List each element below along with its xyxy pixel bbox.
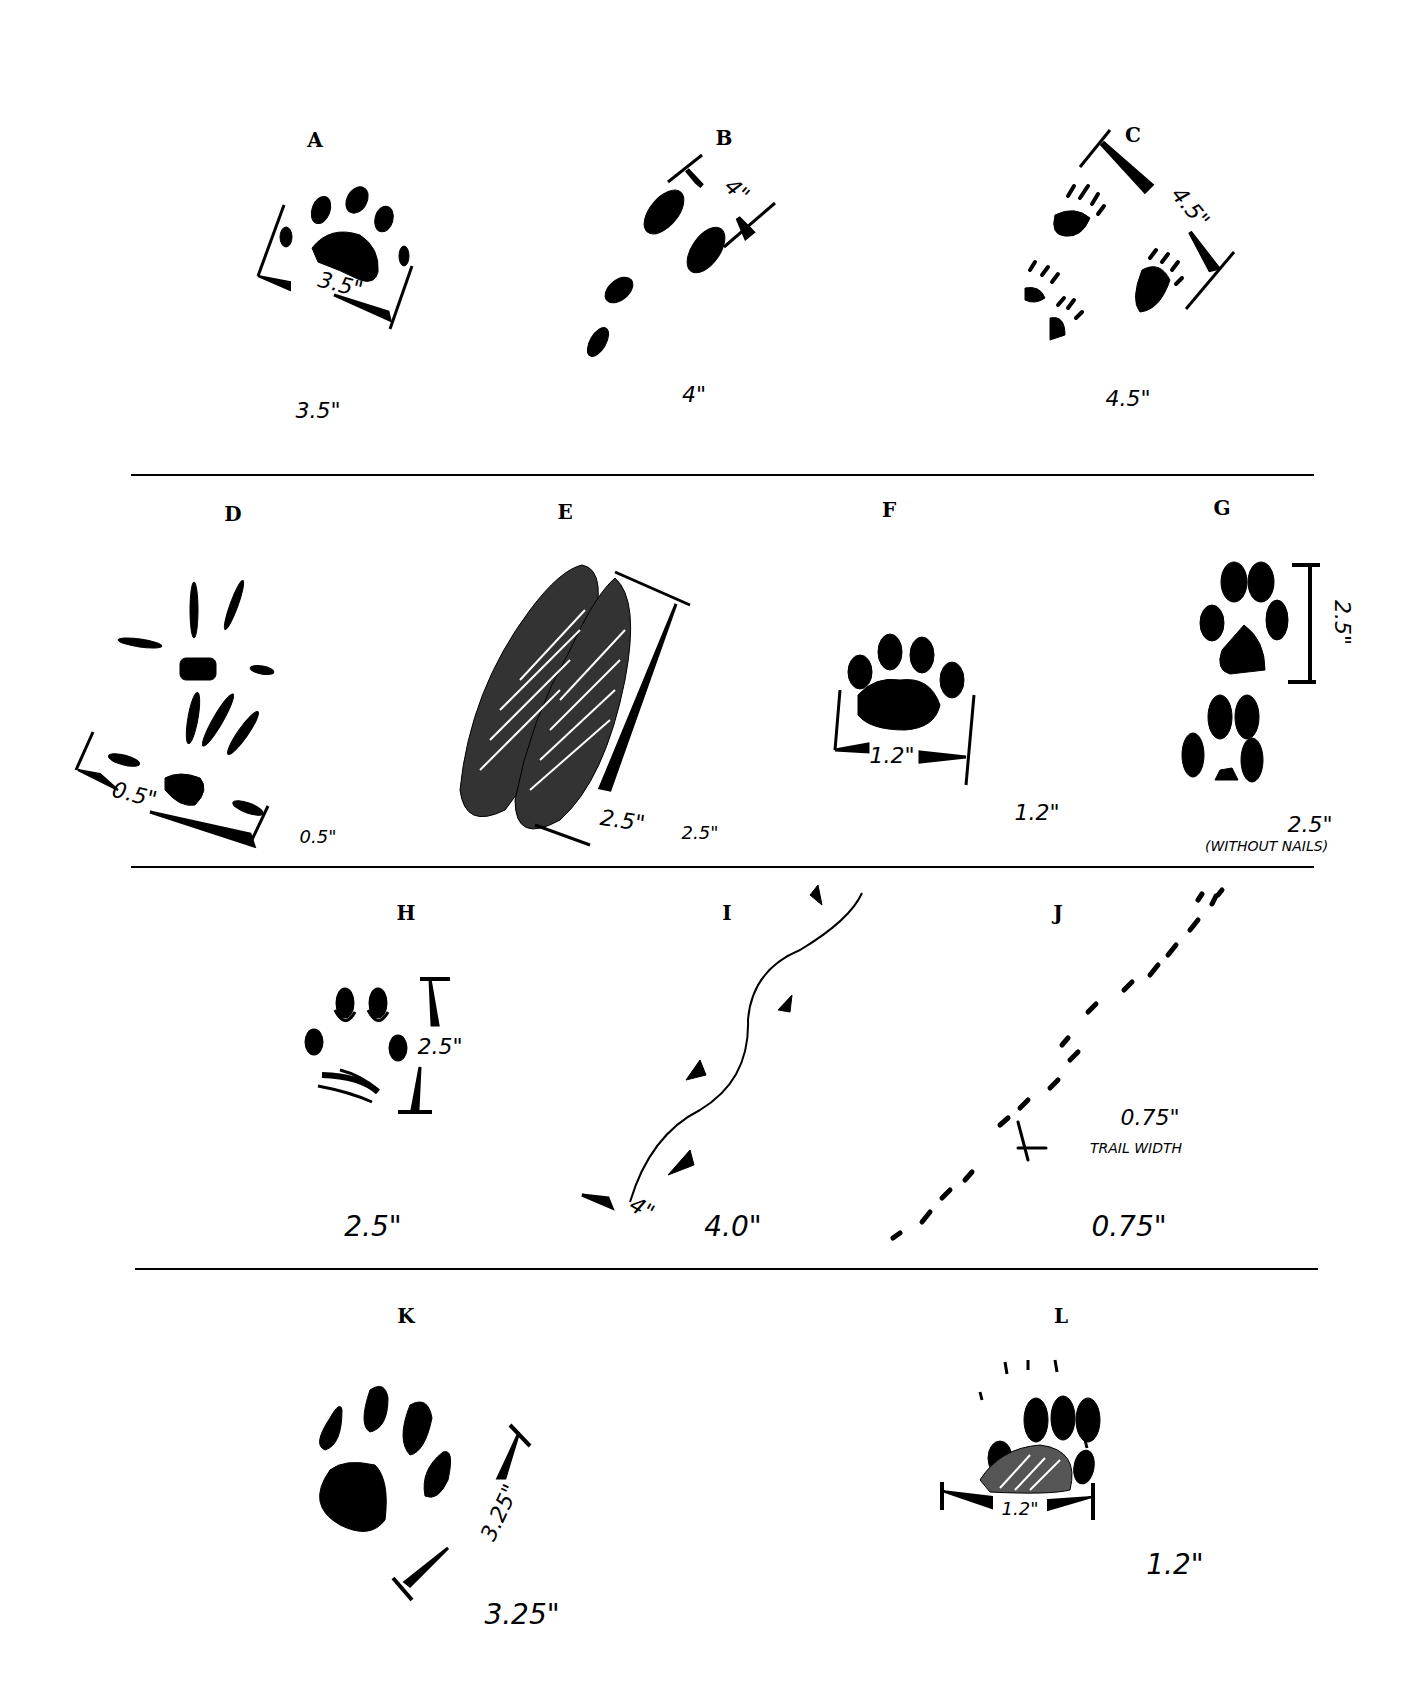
print-a-letter: A <box>307 128 323 152</box>
print-f-measurement: 1.2" <box>1014 800 1059 825</box>
print-b-letter: B <box>716 126 733 150</box>
print-l-letter: L <box>1054 1304 1068 1328</box>
print-g-note: (WITHOUT NAILS) <box>1205 838 1328 854</box>
print-j-dimension-label: 0.75" <box>1120 1105 1179 1130</box>
print-h-measurement: 2.5" <box>344 1210 401 1243</box>
print-g-dimension-label: 2.5" <box>1330 600 1355 645</box>
print-f-dimension-label: 1.2" <box>869 743 914 768</box>
print-f-letter: F <box>882 498 896 522</box>
print-c-prints-icon <box>1025 130 1234 340</box>
print-e-hoof-icon <box>460 565 690 845</box>
print-i-measurement: 4.0" <box>704 1210 761 1243</box>
print-l-dimension-label: 1.2" <box>1002 1498 1039 1519</box>
print-g-measurement: 2.5" <box>1287 812 1332 837</box>
print-j-letter: J <box>1053 901 1062 925</box>
print-c-letter: C <box>1125 123 1141 147</box>
print-l-measurement: 1.2" <box>1146 1548 1203 1581</box>
print-a-measurement: 3.5" <box>295 398 340 423</box>
print-d-letter: D <box>224 502 241 526</box>
print-j-trail-icon <box>893 890 1222 1238</box>
print-a-paw-icon <box>258 183 412 329</box>
print-j-measurement: 0.75" <box>1091 1210 1166 1243</box>
print-l-paw-icon <box>942 1360 1100 1520</box>
print-e-measurement: 2.5" <box>682 822 719 843</box>
print-k-measurement: 3.25" <box>484 1598 559 1631</box>
print-h-dimension-label: 2.5" <box>417 1034 462 1059</box>
print-i-trail-icon <box>582 885 862 1208</box>
print-d-tracks-icon <box>76 579 275 846</box>
print-d-measurement: 0.5" <box>300 826 337 847</box>
print-c-measurement: 4.5" <box>1105 386 1150 411</box>
print-g-paws-icon <box>1182 562 1320 782</box>
print-h-letter: H <box>397 901 416 925</box>
print-i-letter: I <box>722 901 731 925</box>
print-j-trail-width-label: TRAIL WIDTH <box>1090 1140 1182 1156</box>
print-g-letter: G <box>1213 496 1230 520</box>
print-k-letter: K <box>397 1304 414 1328</box>
print-b-measurement: 4" <box>682 382 706 407</box>
print-e-letter: E <box>557 500 572 524</box>
